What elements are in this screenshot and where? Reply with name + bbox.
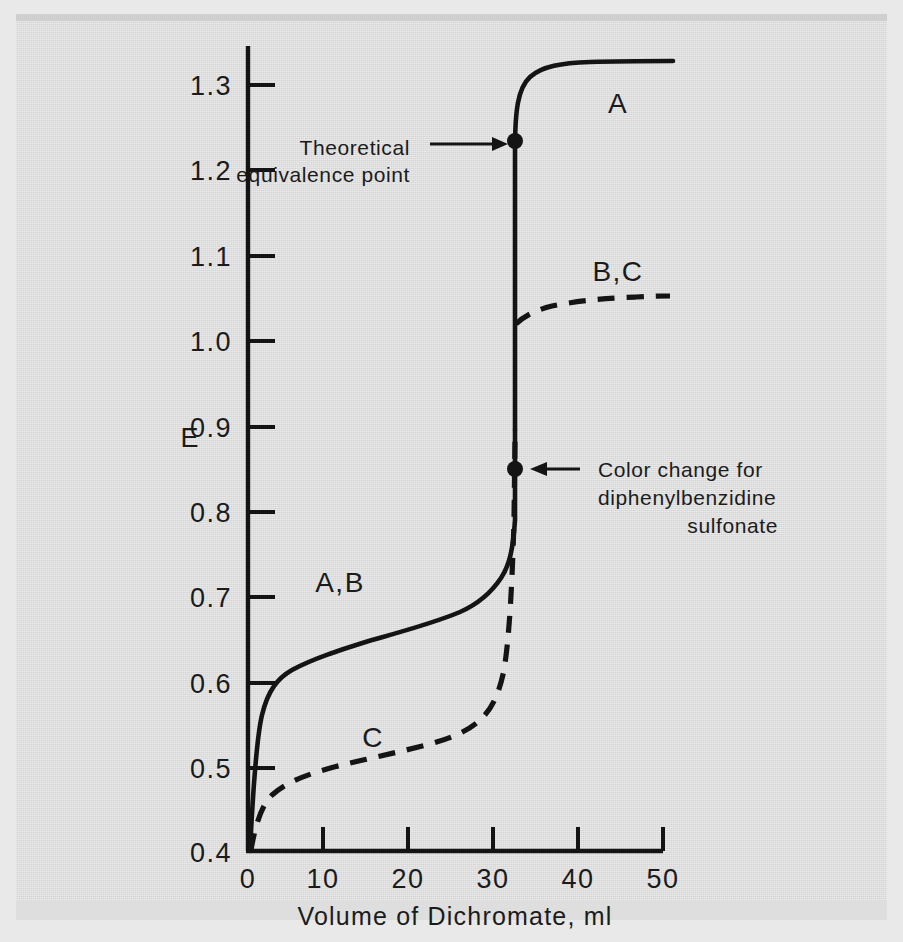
curve-a-vertical-and-plateau (515, 61, 673, 430)
titration-curve-chart: 1.3 1.2 1.1 1.0 0.9 0.8 0.7 0.6 0.5 0.4 … (0, 0, 903, 942)
annotation-theoretical-equivalence-point: Theoretical equivalence point (236, 136, 508, 186)
color-change-point-marker (507, 461, 523, 477)
y-tick-label: 1.3 (190, 71, 232, 101)
x-axis-tick-labels: 0 10 20 30 40 50 (240, 864, 680, 894)
equivalence-arrow-icon (430, 137, 508, 151)
y-axis-title: E (180, 423, 199, 453)
y-tick-label: 1.0 (190, 327, 232, 357)
curve-c-dashed (251, 440, 515, 850)
y-tick-label: 0.7 (190, 583, 232, 613)
x-tick-label: 30 (476, 864, 509, 894)
y-tick-label: 1.1 (190, 242, 232, 272)
x-tick-label: 50 (646, 864, 679, 894)
equivalence-point-marker (507, 133, 523, 149)
y-tick-label: 0.5 (190, 754, 232, 784)
x-tick-label: 0 (240, 864, 257, 894)
x-tick-label: 10 (306, 864, 339, 894)
y-tick-label: 1.2 (190, 156, 232, 186)
curve-a-b-solid (250, 430, 515, 851)
y-axis-tick-labels: 1.3 1.2 1.1 1.0 0.9 0.8 0.7 0.6 0.5 0.4 (190, 71, 232, 868)
x-axis-title: Volume of Dichromate, ml (297, 902, 612, 930)
y-tick-label: 0.8 (190, 498, 232, 528)
curve-label-ab: A,B (315, 567, 365, 598)
color-change-annotation-line1: Color change for (598, 458, 763, 481)
y-tick-label: 0.6 (190, 669, 232, 699)
color-change-annotation-line2: diphenylbenzidine (598, 486, 776, 509)
x-tick-label: 40 (561, 864, 594, 894)
y-axis-ticks (248, 85, 275, 768)
color-change-annotation-line3: sulfonate (687, 514, 778, 537)
x-tick-label: 20 (391, 864, 424, 894)
curve-label-bc: B,C (592, 256, 643, 287)
annotation-color-change: Color change for diphenylbenzidine sulfo… (530, 458, 778, 537)
y-tick-label: 0.4 (190, 838, 232, 868)
curve-b-c-dashed (516, 296, 670, 324)
equivalence-annotation-line2: equivalence point (236, 163, 410, 186)
curve-label-a: A (608, 88, 628, 119)
curve-label-c: C (362, 722, 384, 753)
x-axis-ticks (323, 827, 663, 851)
color-change-arrow-icon (530, 462, 580, 476)
equivalence-annotation-line1: Theoretical (300, 136, 410, 159)
figure-page: 1.3 1.2 1.1 1.0 0.9 0.8 0.7 0.6 0.5 0.4 … (0, 0, 903, 942)
